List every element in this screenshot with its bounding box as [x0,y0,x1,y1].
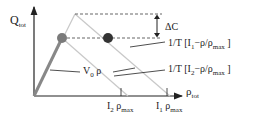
line2-suffix: −ρ/ρ [194,63,212,74]
tick1-sub2: max [170,106,182,114]
line1-sub: 1 [191,43,195,51]
line1-close: ] [225,37,231,48]
x-label-main: ρ [186,85,192,97]
congested-line-1 [75,14,170,96]
line1-label: 1/T [I1−ρ/ρmax ] [168,38,231,48]
free-flow-suffix: ρ [94,65,102,76]
free-flow-label: V0 ρ [83,66,101,76]
line2-label: 1/T [I2−ρ/ρmax ] [168,64,231,74]
tick-label-i2: I2 ρmax [107,101,133,111]
x-axis-label: ρtot [186,86,199,97]
tick2-sub2: max [121,106,133,114]
tick2-sub: 2 [110,106,114,114]
line1-suffix: −ρ/ρ [194,37,212,48]
state-dot-light [57,33,67,43]
y-label-sub: tot [19,21,26,29]
tick1-sub: 1 [159,106,163,114]
line1-prefix: 1/T [I [168,37,191,48]
leader-line1 [130,42,165,47]
delta-c-label: ΔC [165,22,178,32]
y-label-main: Q [10,13,19,27]
x-label-sub: tot [192,92,199,100]
line2-sub: 2 [191,69,195,77]
state-dot-dark [103,33,113,43]
leader-line2 [114,70,165,76]
free-flow-sub: 0 [90,71,94,79]
line2-close: ] [225,63,231,74]
line2-prefix: 1/T [I [168,63,191,74]
y-axis-label: Qtot [10,14,26,26]
line2-sub2: max [213,69,225,77]
leader-v0a [50,70,80,72]
free-flow-line [34,38,62,96]
tick-label-i1: I1 ρmax [156,101,182,111]
line1-sub2: max [213,43,225,51]
leader-v0b [113,68,135,72]
